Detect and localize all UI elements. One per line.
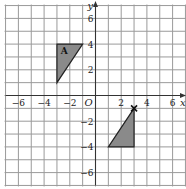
x-tick-label: −2 xyxy=(63,98,76,108)
y-axis-label: y xyxy=(87,0,94,11)
y-tick-label: 2 xyxy=(88,65,94,75)
x-tick-label: −4 xyxy=(37,98,51,108)
x-axis-label: x xyxy=(180,97,186,108)
x-tick-label: −6 xyxy=(12,98,26,108)
x-tick-label: 2 xyxy=(118,98,124,108)
x-tick-label: 4 xyxy=(144,98,150,108)
y-tick-label: 4 xyxy=(88,40,94,50)
axes xyxy=(6,1,186,185)
y-tick-label: −4 xyxy=(80,142,94,152)
y-tick-label: 6 xyxy=(88,14,94,24)
coordinate-grid: A −6−4−2246642−2−4−6 x y O xyxy=(0,0,186,189)
y-tick-label: −6 xyxy=(80,168,94,178)
x-tick-label: 6 xyxy=(170,98,176,108)
y-axis-arrow-icon xyxy=(93,1,98,7)
triangle-A-label: A xyxy=(60,46,69,56)
y-tick-label: −2 xyxy=(80,117,93,127)
origin-label: O xyxy=(85,97,93,108)
